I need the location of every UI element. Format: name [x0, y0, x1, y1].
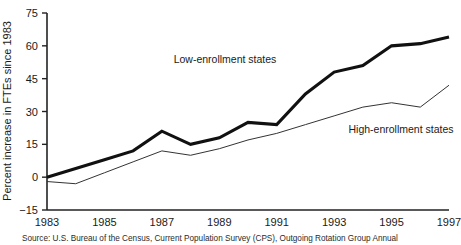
line-chart: −1501530456075 1983198519871989199119931…: [0, 0, 461, 245]
x-axis-tick-labels: 19831985198719891991199319951997: [35, 216, 461, 228]
y-tick-label: 30: [26, 106, 38, 118]
x-tick-label: 1993: [322, 216, 346, 228]
y-tick-label: 45: [26, 73, 38, 85]
y-tick-label: −15: [19, 204, 38, 216]
y-tick-label: 15: [26, 138, 38, 150]
x-tick-label: 1991: [264, 216, 288, 228]
series-label-high-enrollment: High-enrollment states: [349, 123, 454, 135]
x-tick-label: 1983: [35, 216, 59, 228]
chart-figure: −1501530456075 1983198519871989199119931…: [0, 0, 461, 245]
x-tick-label: 1997: [437, 216, 461, 228]
y-axis-tick-labels: −1501530456075: [19, 7, 38, 216]
y-tick-label: 0: [32, 171, 38, 183]
source-note: Source: U.S. Bureau of the Census, Curre…: [22, 234, 460, 244]
plot-area: [47, 13, 449, 210]
x-tick-label: 1985: [92, 216, 116, 228]
y-tick-label: 75: [26, 7, 38, 19]
y-axis-title: Percent increase in FTEs since 1983: [1, 21, 13, 201]
x-tick-label: 1987: [150, 216, 174, 228]
y-tick-label: 60: [26, 40, 38, 52]
x-tick-label: 1995: [379, 216, 403, 228]
series-label-low-enrollment: Low-enrollment states: [174, 53, 277, 65]
x-tick-label: 1989: [207, 216, 231, 228]
